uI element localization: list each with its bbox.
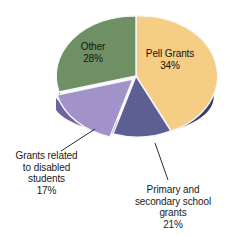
slice-label-other-name: Other xyxy=(81,41,106,52)
slice-label-pell-grants-name: Pell Grants xyxy=(146,48,194,59)
slice-label-disabled-students: Grants related to disabled students 17% xyxy=(0,150,93,196)
pie-chart: Pell Grants 34% Other 28% Grants related… xyxy=(0,0,232,235)
slice-label-other-pct: 28% xyxy=(63,53,123,65)
slice-label-pell-grants-pct: 34% xyxy=(130,60,210,72)
pie-top-faces xyxy=(56,16,217,137)
slice-label-primary-line1: Primary and xyxy=(147,184,200,195)
slice-label-primary-line2: secondary school xyxy=(135,196,211,207)
slice-label-primary-secondary: Primary and secondary school grants 21% xyxy=(114,184,232,230)
slice-label-primary-pct: 21% xyxy=(163,219,183,230)
slice-label-disabled-line3: students xyxy=(28,173,65,184)
slice-label-disabled-pct: 17% xyxy=(37,185,57,196)
slice-label-other: Other 28% xyxy=(63,41,123,64)
slice-label-pell-grants: Pell Grants 34% xyxy=(130,48,210,71)
slice-label-disabled-line2: to disabled xyxy=(23,162,70,173)
leader-line-primary xyxy=(155,143,168,180)
slice-label-disabled-line1: Grants related xyxy=(16,150,78,161)
slice-label-primary-line3: grants xyxy=(159,207,186,218)
leader-line-disabled xyxy=(61,129,95,151)
